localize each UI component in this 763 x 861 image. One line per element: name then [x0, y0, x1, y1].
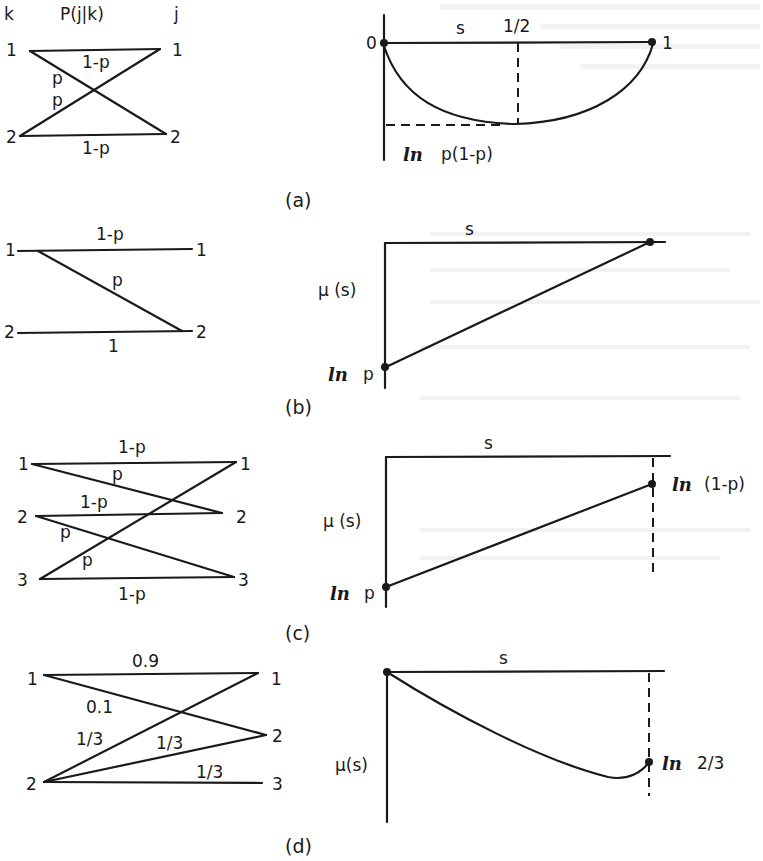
y-axis-label: μ (s) — [323, 511, 361, 531]
channel-diagram-c: 1 2 3 1 2 3 1-p p 1-p p p 1-p — [17, 437, 251, 604]
edge-label-2-3: p — [60, 522, 71, 542]
edge-label-1-1: 0.9 — [132, 651, 159, 671]
input-node-1: 1 — [18, 454, 29, 474]
x-axis — [386, 456, 670, 457]
input-node-1: 1 — [27, 669, 38, 689]
end-point — [645, 758, 653, 766]
y-axis-label: μ(s) — [335, 755, 368, 775]
output-node-1: 1 — [172, 40, 183, 60]
input-node-2: 2 — [17, 507, 28, 527]
figure-channel-diagrams: k P(j|k) j 1 2 1 2 1-p p p 1-p 0 s — [0, 0, 763, 861]
edge-2-2 — [20, 134, 166, 136]
edge-label-3-1: p — [82, 550, 93, 570]
output-node-3: 3 — [238, 570, 249, 590]
origin-point — [380, 39, 388, 47]
end-point — [646, 238, 654, 246]
edge-label-1-1: 1-p — [82, 52, 110, 72]
input-node-3: 3 — [17, 570, 28, 590]
channel-diagram-a: k P(j|k) j 1 2 1 2 1-p p p 1-p — [4, 4, 183, 158]
start-label: p — [364, 583, 375, 603]
edge-2-3 — [44, 782, 262, 783]
caption-c: (c) — [285, 622, 310, 644]
x-axis-label: s — [484, 433, 493, 453]
ln-prefix-start: ln — [330, 583, 350, 604]
caption-a: (a) — [285, 189, 311, 211]
origin-label: 0 — [366, 33, 377, 53]
panel-d: 1 2 1 2 3 0.9 0.1 1/3 1/3 1/3 s μ(s) l — [26, 648, 724, 857]
ln-prefix: ln — [403, 144, 423, 165]
output-node-3: 3 — [272, 774, 283, 794]
edge-label-1-1: 1-p — [118, 437, 146, 457]
edge-label-3-3: 1-p — [118, 584, 146, 604]
ln-prefix-end: ln — [672, 474, 692, 495]
edge-1-2 — [38, 251, 182, 331]
minimum-label: p(1-p) — [441, 144, 493, 164]
output-node-1: 1 — [240, 454, 251, 474]
end-point — [648, 38, 656, 46]
start-point — [381, 363, 389, 371]
transition-prob-header: P(j|k) — [60, 4, 104, 24]
panel-c: 1 2 3 1 2 3 1-p p 1-p p p 1-p s — [17, 433, 745, 644]
input-header-k: k — [4, 4, 14, 24]
output-node-2: 2 — [196, 322, 207, 342]
end-label: (1-p) — [704, 474, 745, 494]
edge-label-2-3: 1/3 — [196, 762, 223, 782]
channel-diagram-b: 1 2 1 2 1-p p 1 — [4, 224, 207, 356]
edge-1-1 — [32, 462, 236, 464]
half-label: 1/2 — [503, 16, 530, 36]
mu-curve — [387, 672, 649, 778]
edge-label-1-2: 0.1 — [86, 697, 113, 717]
output-node-2: 2 — [272, 726, 283, 746]
edge-label-2-2: 1/3 — [156, 733, 183, 753]
output-node-2: 2 — [170, 127, 181, 147]
edge-3-3 — [40, 577, 234, 579]
output-node-1: 1 — [271, 669, 282, 689]
x-axis — [384, 42, 652, 43]
edge-label-1-2: p — [112, 270, 123, 290]
edge-label-1-2: p — [52, 68, 63, 88]
start-point — [382, 583, 390, 591]
edge-label-2-2: 1-p — [82, 138, 110, 158]
output-header-j: j — [173, 4, 179, 24]
edge-label-2-1: 1/3 — [76, 729, 103, 749]
mu-plot-c: s μ (s) ln p ln (1-p) — [323, 433, 745, 607]
x-axis-label: s — [465, 219, 474, 239]
edge-2-2 — [36, 513, 222, 516]
input-node-1: 1 — [5, 240, 16, 260]
x-axis-label: s — [499, 648, 508, 668]
input-node-1: 1 — [6, 40, 17, 60]
edge-2-2 — [18, 331, 192, 333]
input-node-2: 2 — [4, 322, 15, 342]
end-label: 2/3 — [697, 753, 724, 773]
edge-label-2-2: 1-p — [80, 492, 108, 512]
panel-b: 1 2 1 2 1-p p 1 s μ (s) ln p (b) — [4, 219, 665, 418]
caption-d: (d) — [285, 835, 312, 857]
output-node-1: 1 — [196, 240, 207, 260]
ln-prefix: ln — [328, 364, 348, 385]
input-node-2: 2 — [26, 774, 37, 794]
edge-1-1 — [30, 49, 160, 51]
channel-diagram-d: 1 2 1 2 3 0.9 0.1 1/3 1/3 1/3 — [26, 651, 283, 794]
edge-1-1 — [44, 673, 258, 675]
edge-label-1-2: p — [112, 464, 123, 484]
x-axis — [385, 242, 665, 243]
start-label: p — [363, 364, 374, 384]
edge-3-1 — [40, 462, 236, 579]
edge-label-1-1: 1-p — [96, 224, 124, 244]
x-axis — [387, 671, 664, 672]
end-label: 1 — [662, 33, 673, 53]
mu-plot-a: 0 s 1/2 1 ln p(1-p) — [366, 15, 673, 165]
y-axis-label: μ (s) — [318, 280, 356, 300]
panel-a: k P(j|k) j 1 2 1 2 1-p p p 1-p 0 s — [4, 4, 673, 211]
mu-plot-d: s μ(s) ln 2/3 — [335, 648, 724, 822]
ln-prefix: ln — [662, 753, 682, 774]
input-node-2: 2 — [6, 127, 17, 147]
output-node-2: 2 — [236, 507, 247, 527]
edge-2-1 — [44, 673, 258, 782]
edge-label-2-2: 1 — [108, 336, 119, 356]
x-axis-label: s — [456, 18, 465, 38]
mu-line — [386, 484, 652, 587]
edge-label-2-1: p — [52, 90, 63, 110]
edge-1-1 — [18, 249, 192, 251]
caption-b: (b) — [285, 396, 312, 418]
